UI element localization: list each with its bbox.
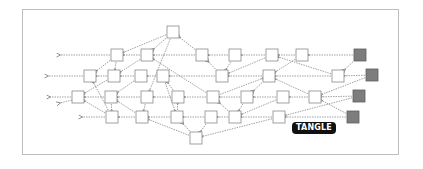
approval-edge <box>201 124 206 131</box>
transaction-node <box>171 111 183 123</box>
tangle-dag-graph <box>0 0 423 169</box>
approval-edge <box>209 62 216 69</box>
transaction-node <box>190 132 202 144</box>
transaction-node <box>229 111 241 123</box>
transaction-node <box>72 91 84 103</box>
approval-edge <box>168 83 173 90</box>
transaction-node <box>105 91 117 103</box>
approval-edge <box>226 62 230 69</box>
transaction-node <box>106 111 118 123</box>
transaction-node <box>167 26 179 38</box>
transaction-node <box>196 49 208 61</box>
tangle-label: TANGLE <box>292 122 336 134</box>
approval-edge <box>239 104 243 110</box>
transaction-node <box>172 91 184 103</box>
transaction-node <box>84 70 96 82</box>
transaction-node <box>273 111 285 123</box>
transaction-node <box>216 70 228 82</box>
approval-edge <box>322 96 352 97</box>
transaction-node <box>332 70 344 82</box>
approval-edge <box>183 124 189 131</box>
approval-edge <box>144 104 146 110</box>
approval-edge <box>115 62 116 69</box>
tip-transaction-node <box>354 49 366 61</box>
transaction-node <box>111 49 123 61</box>
transaction-node <box>207 91 219 103</box>
transaction-node <box>141 49 153 61</box>
tip-transaction-node <box>347 111 359 123</box>
tip-transaction-node <box>353 90 365 102</box>
transaction-node <box>229 49 241 61</box>
transaction-node <box>141 91 153 103</box>
transaction-node <box>263 70 275 82</box>
approval-edge <box>345 62 353 70</box>
genesis-direction-arrow <box>60 100 72 103</box>
approval-edge <box>118 81 134 92</box>
transaction-node <box>135 70 147 82</box>
approval-edge <box>220 103 228 110</box>
approval-edge <box>154 38 166 49</box>
transaction-node <box>266 49 278 61</box>
approval-edge <box>254 83 262 91</box>
transaction-node <box>241 91 253 103</box>
transaction-node <box>277 91 289 103</box>
transaction-node <box>136 111 148 123</box>
approval-edge <box>97 60 110 70</box>
transaction-node <box>108 70 120 82</box>
transaction-node <box>157 70 169 82</box>
approval-edge <box>85 101 105 113</box>
transaction-node <box>296 49 308 61</box>
transaction-node <box>309 91 321 103</box>
approval-edge <box>345 75 365 76</box>
approval-edge <box>180 38 195 50</box>
transaction-node <box>205 111 217 123</box>
tip-transaction-node <box>366 69 378 81</box>
approval-edge <box>118 102 135 113</box>
